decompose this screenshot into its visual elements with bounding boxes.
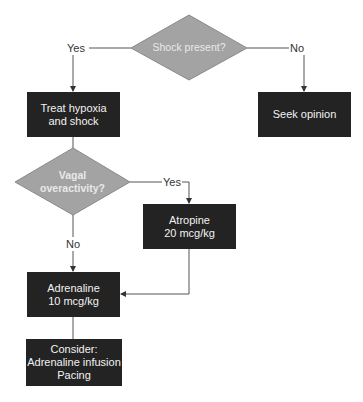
- decision-vagal-overactivity: Vagal overactivity?: [15, 148, 130, 215]
- decision-shock-present: Shock present?: [131, 15, 247, 80]
- edge-label-vagal-yes: Yes: [162, 176, 182, 188]
- edge-label-vagal-no: No: [65, 238, 81, 250]
- process-seek-opinion: Seek opinion: [258, 92, 351, 137]
- edge-label-shock-yes: Yes: [66, 42, 86, 54]
- edge-label-shock-no: No: [289, 42, 305, 54]
- process-atropine: Atropine 20 mcg/kg: [143, 204, 236, 249]
- process-treat-hypoxia-shock: Treat hypoxia and shock: [27, 92, 120, 137]
- process-consider: Consider: Adrenaline infusion Pacing: [26, 339, 122, 386]
- flowchart: Shock present? Vagal overactivity? Yes N…: [0, 0, 363, 402]
- process-adrenaline: Adrenaline 10 mcg/kg: [27, 272, 120, 317]
